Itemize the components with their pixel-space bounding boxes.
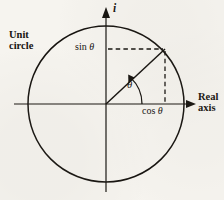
unit-circle-label: Unitcircle [9,29,33,52]
unit-circle-label-line2: circle [9,40,33,51]
angle-arc [131,78,142,104]
cos-function-name: cos [142,105,155,116]
real-axis-label-line2: axis [198,102,216,113]
cos-theta-argument: θ [158,105,163,116]
cos-theta-label: cos θ [142,106,163,117]
imaginary-unit-label: i [113,2,116,14]
real-axis-label-line1: Real [198,91,218,102]
sin-theta-argument: θ [89,41,94,52]
sin-theta-label: sin θ [75,42,94,53]
real-axis-arrowhead-icon [186,100,196,108]
unit-circle-drawing [0,0,224,200]
angle-theta-label: θ [127,79,132,90]
unit-circle-label-line1: Unit [9,29,29,40]
real-axis-label: Realaxis [198,91,218,114]
radius-segment [106,49,165,104]
sin-function-name: sin [75,41,87,52]
imaginary-axis-arrowhead-icon [102,7,110,18]
unit-circle-figure: Unitcircle Realaxis i sin θ cos θ θ [0,0,224,200]
